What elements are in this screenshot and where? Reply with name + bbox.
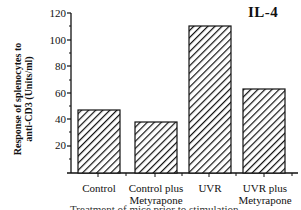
x-tick-control: Control [74, 182, 124, 194]
bar-control [78, 110, 120, 173]
plot-area [0, 0, 301, 210]
x-tick-uvr: UVR [190, 182, 230, 194]
bar-control-plus-metyrapone [135, 122, 177, 173]
x-tick-uvr-plus-metyrapone: UVR plus Metyrapone [234, 182, 296, 206]
footer-caption-partial: Treatment of mice prior to stimulation [70, 203, 239, 210]
bar-uvr-plus-metyrapone [243, 89, 285, 173]
bar-uvr [189, 26, 231, 173]
